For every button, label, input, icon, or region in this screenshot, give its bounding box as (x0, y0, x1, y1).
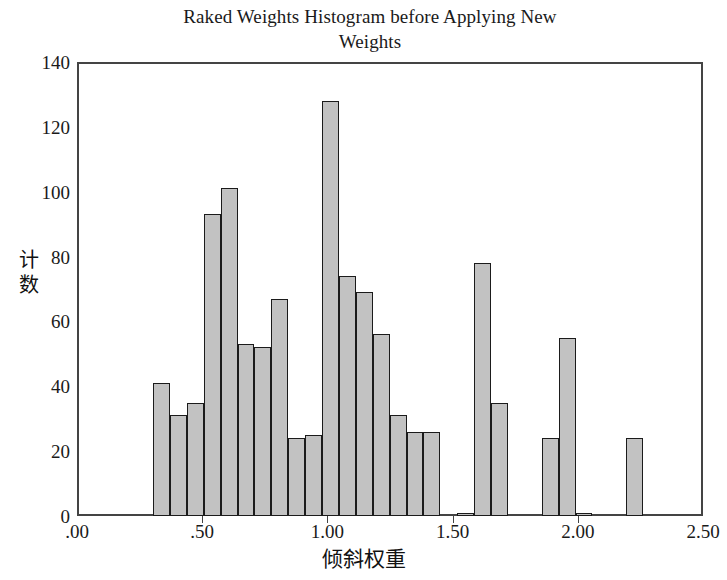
histogram-bar (153, 383, 170, 516)
x-axis-tick-label: .00 (37, 521, 117, 543)
histogram-bar (322, 101, 339, 516)
histogram-bar (170, 415, 187, 516)
histogram-bar (356, 292, 373, 516)
x-axis-tick-label: 2.00 (538, 521, 618, 543)
histogram-bar (423, 432, 440, 516)
x-axis-tick-mark (578, 516, 579, 523)
histogram-bar (390, 415, 407, 516)
histogram-bar (626, 438, 643, 516)
y-axis-tick-label: 120 (8, 118, 70, 137)
histogram-bar (407, 432, 424, 516)
chart-title: Raked Weights Histogram before Applying … (90, 4, 650, 54)
histogram-bar (474, 263, 491, 516)
histogram-bar (373, 334, 390, 516)
histogram-bar (457, 513, 474, 516)
histogram-bar (288, 438, 305, 516)
y-axis-tick-labels: 020406080100120140 (0, 0, 70, 580)
y-axis-tick-label: 20 (8, 442, 70, 461)
histogram-bar (254, 347, 271, 516)
histogram-bar (559, 338, 576, 516)
histogram-bar (339, 276, 356, 516)
x-axis-tick-label: 2.50 (663, 521, 727, 543)
y-axis-tick-label: 140 (8, 53, 70, 72)
x-axis-tick-label: 1.00 (287, 521, 367, 543)
x-axis-label: 倾斜权重 (0, 547, 727, 571)
y-axis-tick-label: 60 (8, 312, 70, 331)
histogram-bar (271, 299, 288, 516)
histogram-bar (204, 214, 221, 516)
histogram-bar (238, 344, 255, 516)
y-axis-tick-label: 40 (8, 377, 70, 396)
x-axis-tick-label: 1.50 (413, 521, 493, 543)
x-axis-tick-mark (453, 516, 454, 523)
histogram-bar (542, 438, 559, 516)
x-axis-tick-mark (202, 516, 203, 523)
y-axis-tick-label: 100 (8, 183, 70, 202)
histogram-bar (491, 403, 508, 517)
x-axis-tick-mark (327, 516, 328, 523)
x-axis-tick-label: .50 (162, 521, 242, 543)
histogram-bar (187, 403, 204, 517)
histogram-bar (305, 435, 322, 516)
histogram-bar (221, 188, 238, 516)
histogram-bars (77, 62, 703, 516)
histogram-figure: Raked Weights Histogram before Applying … (0, 0, 727, 580)
y-axis-tick-label: 80 (8, 248, 70, 267)
